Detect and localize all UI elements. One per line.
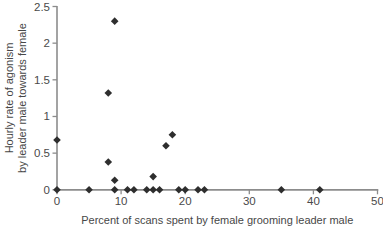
x-tick-label: 40: [307, 195, 320, 207]
x-axis-label: Percent of scans spent by female groomin…: [81, 214, 353, 226]
scatter-plot-figure: 00.511.522.501020304050Percent of scans …: [0, 0, 383, 226]
data-point: [201, 186, 209, 194]
y-tick-label: 0.5: [34, 147, 50, 159]
data-point: [111, 17, 119, 25]
data-point: [53, 136, 61, 144]
y-tick-label: 2.5: [34, 1, 50, 13]
x-tick-label: 0: [54, 195, 60, 207]
y-tick-label: 0: [44, 184, 50, 196]
x-tick-label: 20: [179, 195, 192, 207]
data-point: [156, 186, 164, 194]
y-axis-label-line2: by leader male towards female: [16, 23, 28, 173]
data-point: [104, 89, 112, 97]
data-point: [104, 158, 112, 166]
data-point: [149, 173, 157, 181]
y-tick-label: 1: [44, 110, 50, 122]
data-point: [53, 186, 61, 194]
chart-canvas: 00.511.522.501020304050Percent of scans …: [0, 0, 383, 226]
x-tick-label: 50: [371, 195, 383, 207]
y-tick-label: 1.5: [34, 74, 50, 86]
data-point: [130, 186, 138, 194]
data-point: [111, 176, 119, 184]
data-point: [316, 186, 324, 194]
y-axis-label-line1: Hourly rate of agonism: [3, 43, 15, 154]
data-point: [278, 186, 286, 194]
data-point: [162, 142, 170, 150]
data-point: [169, 131, 177, 139]
data-point: [181, 186, 189, 194]
data-point: [111, 186, 119, 194]
x-tick-label: 10: [115, 195, 128, 207]
y-tick-label: 2: [44, 37, 50, 49]
data-point: [85, 186, 93, 194]
x-tick-label: 30: [243, 195, 256, 207]
